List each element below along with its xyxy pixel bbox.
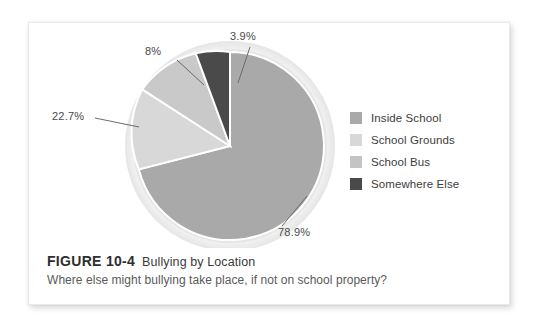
caption-heading: FIGURE 10-4Bullying by Location [47, 253, 493, 269]
figure-number: FIGURE 10-4 [47, 253, 135, 269]
legend-label-inside-school: Inside School [371, 112, 441, 124]
legend-swatch-icon-school-grounds [350, 134, 362, 146]
figure-subtitle: Where else might bullying take place, if… [47, 273, 493, 287]
legend-item-school-grounds[interactable]: School Grounds [350, 129, 500, 151]
legend-label-school-grounds: School Grounds [371, 134, 455, 146]
legend-item-somewhere-else[interactable]: Somewhere Else [350, 173, 500, 195]
legend-swatch-icon-somewhere-else [350, 178, 362, 190]
legend-swatch-icon-school-bus [350, 156, 362, 168]
pie-value-label-school-bus: 8% [145, 45, 161, 57]
figure-title: Bullying by Location [142, 255, 255, 269]
legend-label-school-bus: School Bus [371, 156, 430, 168]
legend-item-inside-school[interactable]: Inside School [350, 107, 500, 129]
legend-swatch-icon-inside-school [350, 112, 362, 124]
pie-value-label-school-grounds: 22.7% [52, 110, 84, 122]
pie-value-label-inside-school: 78.9% [278, 226, 310, 238]
legend-label-somewhere-else: Somewhere Else [371, 178, 459, 190]
figure-card: 8% 3.9% 22.7% 78.9% Inside School School… [28, 22, 510, 305]
pie-chart-plot-area: 8% 3.9% 22.7% 78.9% Inside School School… [29, 23, 511, 248]
chart-legend: Inside School School Grounds School Bus … [350, 107, 500, 195]
legend-item-school-bus[interactable]: School Bus [350, 151, 500, 173]
pie-value-label-somewhere-else: 3.9% [230, 30, 256, 42]
figure-caption: FIGURE 10-4Bullying by Location Where el… [47, 248, 493, 287]
